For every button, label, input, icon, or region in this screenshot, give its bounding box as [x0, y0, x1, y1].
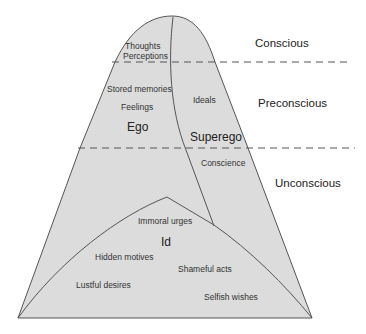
- superego-label: Superego: [190, 131, 242, 143]
- ego-item-feelings: Feelings: [121, 103, 153, 112]
- id-item-hidden-motives: Hidden motives: [95, 253, 154, 262]
- superego-item-conscience: Conscience: [201, 159, 245, 168]
- level-unconscious-label: Unconscious: [275, 178, 341, 190]
- ego-item-stored-memories: Stored memories: [107, 85, 172, 94]
- superego-item-ideals: Ideals: [193, 96, 216, 105]
- iceberg-diagram: [0, 0, 366, 334]
- id-label: Id: [161, 236, 171, 248]
- id-item-shameful-acts: Shameful acts: [178, 265, 232, 274]
- id-item-immoral-urges: Immoral urges: [138, 217, 192, 226]
- ego-label: Ego: [127, 121, 148, 133]
- ego-item-thoughts: Thoughts: [125, 42, 160, 51]
- ego-item-perceptions: Perceptions: [123, 52, 168, 61]
- iceberg-outline: [18, 16, 312, 318]
- id-item-lustful-desires: Lustful desires: [76, 281, 131, 290]
- level-conscious-label: Conscious: [255, 38, 309, 50]
- level-preconscious-label: Preconscious: [258, 98, 327, 110]
- id-item-selfish-wishes: Selfish wishes: [204, 293, 258, 302]
